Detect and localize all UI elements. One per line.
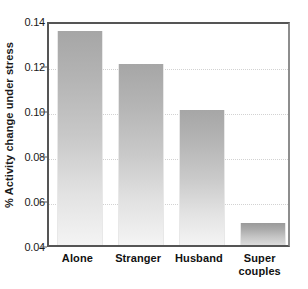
x-axis-tick-label: Alone — [47, 252, 108, 265]
plot-area — [47, 22, 290, 247]
x-axis-tick-label-line: Stranger — [108, 252, 169, 265]
bar-super-couples — [240, 223, 286, 246]
y-axis-title: % Activity change under stress — [0, 0, 18, 250]
bar-chart-figure: % Activity change under stress 0.040.060… — [0, 0, 308, 289]
y-axis-tick-label: 0.06 — [0, 196, 45, 208]
y-axis-tick-label: 0.12 — [0, 61, 45, 73]
x-axis-tick-label: Supercouples — [229, 252, 290, 278]
x-axis-tick-label-line: Alone — [47, 252, 108, 265]
bar-alone — [57, 31, 103, 245]
y-axis-tick-label: 0.04 — [0, 241, 45, 253]
x-axis-tick-label-line: Husband — [169, 252, 230, 265]
bar-husband — [179, 110, 225, 245]
bar-stranger — [118, 64, 164, 245]
y-axis-tick-label: 0.08 — [0, 151, 45, 163]
x-axis-tick-label-line: couples — [229, 265, 290, 278]
x-axis-tick-label-line: Super — [229, 252, 290, 265]
x-axis-tick-label: Stranger — [108, 252, 169, 265]
y-axis-tick-label: 0.14 — [0, 16, 45, 28]
x-axis-tick-label: Husband — [169, 252, 230, 265]
y-axis-tick-label: 0.10 — [0, 106, 45, 118]
